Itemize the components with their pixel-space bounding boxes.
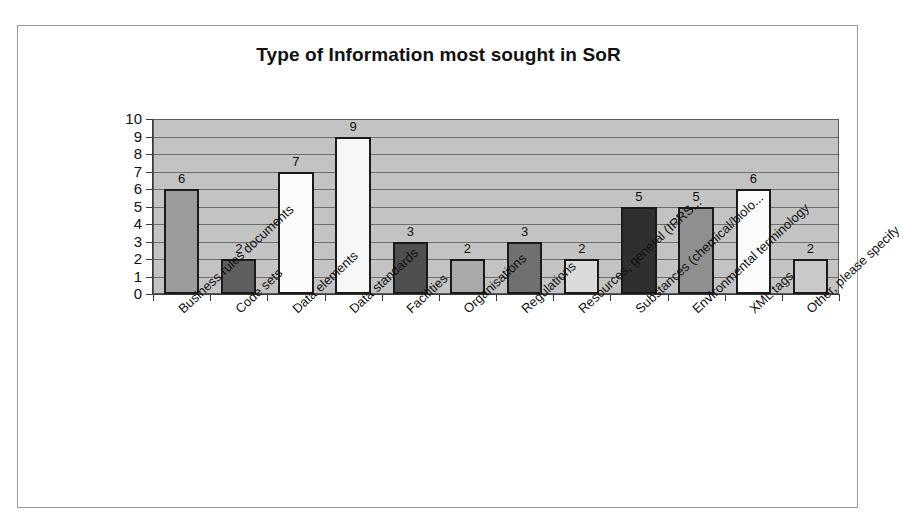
y-tick-mark bbox=[146, 119, 153, 120]
chart-title: Type of Information most sought in SoR bbox=[18, 44, 859, 66]
x-tick-mark bbox=[553, 295, 554, 301]
bar-value-label: 3 bbox=[390, 225, 430, 238]
y-tick-label: 0 bbox=[102, 286, 142, 301]
y-tick-label: 3 bbox=[102, 234, 142, 249]
x-tick-mark bbox=[610, 295, 611, 301]
bar-value-label: 6 bbox=[733, 172, 773, 185]
y-tick-label: 7 bbox=[102, 164, 142, 179]
bar-value-label: 2 bbox=[447, 242, 487, 255]
y-tick-label: 5 bbox=[102, 199, 142, 214]
x-tick-mark bbox=[668, 295, 669, 301]
x-tick-mark bbox=[439, 295, 440, 301]
chart-frame: Type of Information most sought in SoR 0… bbox=[17, 25, 858, 508]
y-tick-mark bbox=[146, 294, 153, 295]
y-tick-label: 9 bbox=[102, 129, 142, 144]
x-tick-mark bbox=[725, 295, 726, 301]
gridline bbox=[154, 137, 838, 138]
y-tick-label: 2 bbox=[102, 251, 142, 266]
x-tick-mark bbox=[153, 295, 154, 301]
y-tick-label: 4 bbox=[102, 216, 142, 231]
bar-value-label: 7 bbox=[276, 155, 316, 168]
y-tick-mark bbox=[146, 207, 153, 208]
y-tick-mark bbox=[146, 137, 153, 138]
x-tick-mark bbox=[782, 295, 783, 301]
bar-value-label: 3 bbox=[505, 225, 545, 238]
y-tick-mark bbox=[146, 224, 153, 225]
bar-value-label: 2 bbox=[790, 242, 830, 255]
bar-value-label: 5 bbox=[619, 190, 659, 203]
gridline bbox=[154, 154, 838, 155]
x-tick-mark bbox=[210, 295, 211, 301]
bar bbox=[164, 189, 199, 294]
x-tick-mark bbox=[325, 295, 326, 301]
y-tick-label: 6 bbox=[102, 181, 142, 196]
y-tick-mark bbox=[146, 259, 153, 260]
y-tick-mark bbox=[146, 242, 153, 243]
bar-value-label: 6 bbox=[162, 172, 202, 185]
x-tick-mark bbox=[839, 295, 840, 301]
bar-value-label: 9 bbox=[333, 120, 373, 133]
y-tick-mark bbox=[146, 172, 153, 173]
y-tick-label: 10 bbox=[102, 111, 142, 126]
y-tick-mark bbox=[146, 277, 153, 278]
x-tick-mark bbox=[267, 295, 268, 301]
x-tick-mark bbox=[496, 295, 497, 301]
bar-value-label: 2 bbox=[562, 242, 602, 255]
x-tick-mark bbox=[382, 295, 383, 301]
y-tick-mark bbox=[146, 154, 153, 155]
y-tick-label: 8 bbox=[102, 146, 142, 161]
y-tick-mark bbox=[146, 189, 153, 190]
y-tick-label: 1 bbox=[102, 269, 142, 284]
